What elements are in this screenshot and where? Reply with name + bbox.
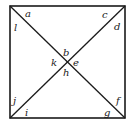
angle-label-e: e: [73, 57, 79, 68]
angle-label-g: g: [104, 107, 110, 118]
angle-label-h: h: [63, 67, 69, 78]
angle-label-a: a: [25, 8, 31, 19]
angle-label-j: j: [11, 95, 16, 106]
angle-label-l: l: [14, 22, 17, 33]
angle-label-k: k: [51, 57, 57, 68]
square-diagonals-diagram: a l c d b e h k j i f g: [0, 0, 132, 129]
angle-label-c: c: [102, 9, 108, 20]
angle-label-b: b: [63, 47, 69, 58]
angle-label-i: i: [25, 107, 28, 118]
angle-label-d: d: [114, 21, 120, 32]
angle-label-f: f: [115, 95, 122, 106]
